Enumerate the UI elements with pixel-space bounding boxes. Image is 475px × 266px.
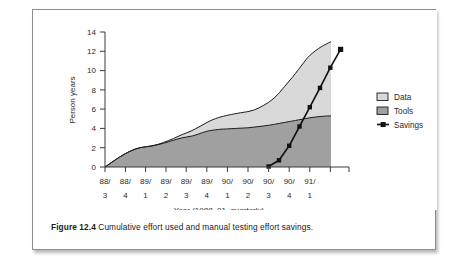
y-tick-label: 4 (92, 124, 97, 133)
x-tick-label-top: 89/ (160, 177, 172, 186)
savings-marker (338, 47, 343, 52)
x-tick-label-bottom: 4 (287, 191, 292, 200)
x-tick-label-bottom: 3 (103, 191, 108, 200)
cumulative-effort-chart: 0 2 4 6 8 10 12 14 Person years (33, 10, 437, 210)
x-tick-label-bottom: 1 (143, 191, 148, 200)
x-tick-label-bottom: 4 (205, 191, 210, 200)
x-tick-label-bottom: 1 (308, 191, 313, 200)
x-tick-label-top: 88/ (99, 177, 111, 186)
legend-swatch-data (377, 93, 388, 101)
figure-caption-text: Cumulative effort used and manual testin… (98, 222, 313, 232)
x-tick-label-top: 90/ (222, 177, 234, 186)
legend-label-savings: Savings (394, 121, 423, 130)
y-tick-label: 10 (87, 66, 96, 75)
x-tick-label-bottom: 2 (164, 191, 169, 200)
figure-caption-label: Figure 12.4 (51, 222, 96, 232)
plot-region: 0 2 4 6 8 10 12 14 Person years (33, 10, 437, 210)
savings-marker (308, 105, 312, 109)
x-axis-title: Year (1988–91, quarterly) (174, 206, 265, 210)
figure-card: 0 2 4 6 8 10 12 14 Person years (32, 9, 436, 250)
legend-label-data: Data (394, 93, 412, 102)
figure-caption: Figure 12.4 Cumulative effort used and m… (51, 222, 431, 232)
y-tick-label: 0 (92, 163, 97, 172)
x-tick-label-top: 89/ (140, 177, 152, 186)
x-tick-label-bottom: 3 (266, 191, 271, 200)
y-axis-title: Person years (68, 76, 77, 123)
savings-marker (277, 158, 281, 162)
y-tick-label: 2 (92, 144, 97, 153)
y-tick-label: 12 (87, 47, 96, 56)
savings-marker (318, 86, 322, 90)
x-tick-label-top: 89/ (201, 177, 213, 186)
x-tick-label-bottom: 1 (225, 191, 230, 200)
x-tick-label-top: 90/ (263, 177, 275, 186)
y-tick-label: 14 (87, 28, 96, 37)
savings-marker (328, 66, 332, 70)
y-tick-label: 6 (92, 105, 97, 114)
legend-swatch-tools (377, 107, 388, 115)
savings-marker (297, 124, 301, 128)
x-tick-label-top: 91/ (304, 177, 316, 186)
legend-label-tools: Tools (394, 107, 413, 116)
x-tick-label-top: 88/ (120, 177, 132, 186)
x-tick-label-top: 90/ (284, 177, 296, 186)
x-tick-label-top: 90/ (242, 177, 254, 186)
x-tick-label-bottom: 4 (123, 191, 128, 200)
x-tick-label-top: 89/ (181, 177, 193, 186)
x-tick-label-bottom: 3 (184, 191, 189, 200)
x-tick-label-bottom: 2 (246, 191, 251, 200)
savings-marker (287, 144, 291, 148)
y-tick-label: 8 (92, 86, 97, 95)
